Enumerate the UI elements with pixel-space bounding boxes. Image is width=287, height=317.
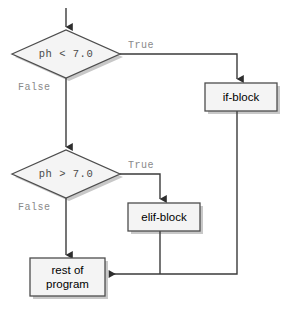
decision-2-shape	[12, 150, 120, 198]
elif-block-shape	[128, 203, 200, 231]
if-block-shape	[205, 83, 277, 111]
edge-if-merge	[109, 110, 237, 274]
rest-of-program-shape	[30, 258, 105, 296]
flowchart-canvas: ph < 7.0 ph > 7.0 if-block elif-block re…	[0, 0, 287, 317]
flowchart-graphics	[0, 0, 287, 317]
decision-1-shape	[12, 30, 120, 78]
edge-d2-true	[120, 174, 160, 199]
edge-d1-true	[120, 54, 237, 79]
